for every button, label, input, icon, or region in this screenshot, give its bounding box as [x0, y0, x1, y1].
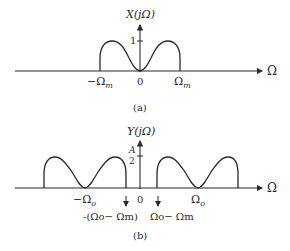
figure-a: X(jΩ) Ω 1 −Ωm 0 Ωm (a): [15, 8, 277, 113]
ytick-den-b: 2: [129, 156, 135, 166]
xlabel-b: Ω: [267, 181, 277, 195]
ylabel-b: Y(jΩ): [127, 125, 155, 138]
arrow-label-left: -(Ωo− Ωm): [83, 211, 138, 222]
xtick-neg-omega-o: −Ωo: [73, 193, 96, 208]
ytick-num-b: A: [128, 145, 136, 155]
ytick-label-a: 1: [130, 35, 136, 46]
xtick-neg-omega-m: −Ωm: [87, 75, 113, 90]
xtick-pos-omega-o: Ωo: [191, 193, 205, 208]
xtick-zero-b: 0: [137, 194, 143, 205]
xlabel-a: Ω: [267, 64, 277, 78]
xtick-zero-a: 0: [137, 76, 143, 87]
ylabel-a: X(jΩ): [125, 8, 155, 21]
caption-b: (b): [133, 230, 147, 241]
xtick-pos-omega-m: Ωm: [174, 75, 191, 90]
spectrum-y-left: [44, 157, 126, 188]
spectrum-diagram: X(jΩ) Ω 1 −Ωm 0 Ωm (a) Y(jΩ) Ω A 2 −Ωo 0…: [0, 0, 290, 251]
arrow-label-right: Ωo− Ωm: [150, 211, 194, 222]
caption-a: (a): [133, 102, 147, 113]
spectrum-y-right: [157, 157, 238, 188]
figure-b: Y(jΩ) Ω A 2 −Ωo 0 Ωo -(Ωo− Ωm) Ωo− Ωm (b…: [15, 125, 277, 241]
